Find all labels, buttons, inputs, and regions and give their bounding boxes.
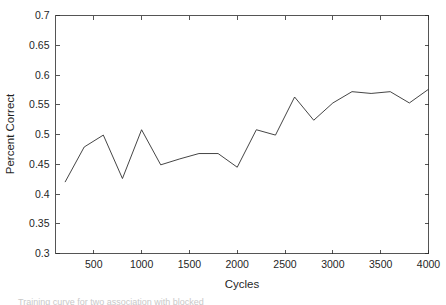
figure-container: 0.30.350.40.450.50.550.60.650.7 50010001… [0, 0, 446, 305]
y-tick-label: 0.65 [29, 39, 50, 51]
y-tick-label: 0.55 [29, 98, 50, 110]
y-tick-label: 0.7 [35, 9, 50, 21]
line-chart: 0.30.350.40.450.50.550.60.650.7 50010001… [0, 0, 446, 305]
x-tick-label: 3500 [369, 258, 393, 270]
x-axis-tick-labels: 5001000150020002500300035004000 [85, 258, 440, 270]
x-tick-label: 2000 [226, 258, 250, 270]
y-tick-label: 0.3 [35, 247, 50, 259]
y-axis-title: Percent Correct [4, 93, 16, 174]
y-tick-label: 0.45 [29, 158, 50, 170]
x-tick-label: 500 [85, 258, 103, 270]
data-series-group [65, 89, 428, 182]
x-tick-label: 2500 [273, 258, 297, 270]
x-axis-title: Cycles [225, 278, 260, 290]
x-tick-label: 4000 [417, 258, 441, 270]
axes-frame [56, 16, 429, 254]
y-tick-label: 0.4 [35, 188, 50, 200]
x-tick-label: 3000 [321, 258, 345, 270]
x-tick-label: 1000 [130, 258, 154, 270]
y-axis-ticks [56, 16, 429, 254]
y-tick-label: 0.6 [35, 69, 50, 81]
data-line-percent-correct [65, 89, 428, 182]
x-tick-label: 1500 [178, 258, 202, 270]
y-axis-tick-labels: 0.30.350.40.450.50.550.60.650.7 [29, 9, 50, 259]
y-tick-label: 0.5 [35, 128, 50, 140]
figure-caption-fragment: Training curve for two association with … [0, 298, 446, 305]
y-tick-label: 0.35 [29, 217, 50, 229]
